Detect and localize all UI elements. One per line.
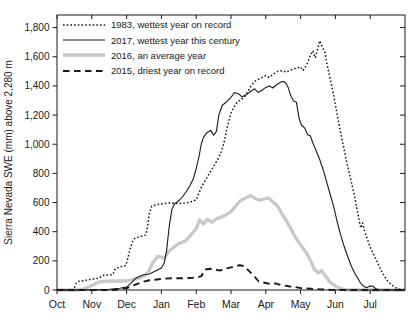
y-tick-label-1,400: 1,400 — [24, 80, 49, 91]
legend-item-2015: 2015, driest year on record — [62, 63, 240, 78]
legend-label: 1983, wettest year on record — [111, 19, 231, 30]
swe-chart-figure: OctNovDecJanFebMarAprMayJunJul0200400600… — [0, 0, 414, 322]
legend-label: 2016, an average year — [111, 50, 206, 61]
x-tick-label-Jan: Jan — [153, 298, 170, 310]
x-tick-label-Mar: Mar — [222, 298, 241, 310]
y-tick-label-800: 800 — [33, 168, 50, 179]
x-tick-label-Oct: Oct — [49, 298, 65, 310]
x-tick-label-Jul: Jul — [363, 298, 376, 310]
legend-label: 2017, wettest year this century — [111, 35, 240, 46]
legend-label: 2015, driest year on record — [111, 65, 225, 76]
legend-item-2017: 2017, wettest year this century — [62, 32, 240, 47]
y-tick-label-1,200: 1,200 — [24, 110, 49, 121]
x-tick-label-Jun: Jun — [327, 298, 344, 310]
y-tick-label-200: 200 — [33, 255, 50, 266]
y-tick-label-1,800: 1,800 — [24, 22, 49, 33]
legend-item-2016: 2016, an average year — [62, 48, 240, 63]
legend-item-1983: 1983, wettest year on record — [62, 17, 240, 32]
legend-line-sample — [62, 36, 106, 44]
y-tick-label-600: 600 — [33, 197, 50, 208]
legend-line-sample — [62, 51, 106, 59]
x-tick-label-Nov: Nov — [82, 298, 101, 310]
series-line-2016 — [57, 196, 405, 291]
y-tick-label-1,600: 1,600 — [24, 51, 49, 62]
y-tick-label-0: 0 — [44, 285, 50, 296]
x-tick-label-Dec: Dec — [117, 298, 136, 310]
x-tick-label-Apr: Apr — [258, 298, 275, 310]
x-tick-label-Feb: Feb — [187, 298, 205, 310]
x-tick-label-May: May — [291, 298, 312, 310]
legend-line-sample — [62, 67, 106, 75]
chart-legend: 1983, wettest year on record2017, wettes… — [62, 17, 240, 79]
legend-line-sample — [62, 21, 106, 29]
y-axis-title: Sierra Nevada SWE (mm) above 2,280 m — [3, 53, 16, 253]
y-tick-label-400: 400 — [33, 226, 50, 237]
y-tick-label-1,000: 1,000 — [24, 139, 49, 150]
